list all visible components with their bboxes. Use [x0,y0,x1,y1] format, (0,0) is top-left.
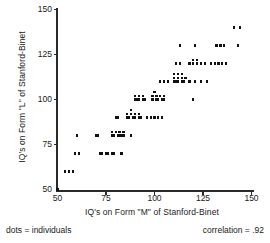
data-point [150,116,152,118]
data-point [192,59,194,61]
x-tick-mark [202,191,203,195]
x-tick-mark [154,191,155,195]
data-point [177,80,179,82]
data-point [115,131,117,133]
dots-legend-note: dots = individuals [6,225,71,235]
data-point [107,152,109,154]
data-point [221,62,223,64]
data-point [134,116,136,118]
data-point [177,77,179,79]
data-point [194,80,196,82]
data-point [161,116,163,118]
data-point [153,91,155,93]
data-point [134,113,136,115]
data-point [181,73,183,75]
data-point [138,95,140,97]
data-point [120,152,122,154]
data-point [159,95,161,97]
y-tick-label: 125 [26,49,52,59]
data-point [179,62,181,64]
data-point [144,98,146,100]
y-tick-mark [54,9,58,10]
data-point [223,44,225,46]
data-point [184,77,186,79]
y-tick-label: 150 [26,4,52,14]
data-point [173,73,175,75]
data-point [142,95,144,97]
data-point [151,98,153,100]
data-point [56,188,58,190]
data-point [163,80,165,82]
data-point [163,98,165,100]
data-point [237,44,239,46]
y-tick-mark [54,144,58,145]
data-point [210,62,212,64]
data-point [122,131,124,133]
data-point [76,134,78,136]
data-point [217,62,219,64]
data-point [64,170,66,172]
data-point [130,134,132,136]
data-point [138,113,140,115]
data-point [192,98,194,100]
data-point [219,44,221,46]
data-point [196,62,198,64]
data-point [225,62,227,64]
data-point [146,116,148,118]
data-point [78,152,80,154]
data-point [101,152,103,154]
data-point [239,26,241,28]
data-point [72,170,74,172]
data-point [233,26,235,28]
correlation-note: correlation = .92 [203,225,264,235]
data-point [122,134,124,136]
data-point [181,77,183,79]
data-point [74,152,76,154]
data-point [183,80,185,82]
scatter-plot-figure: IQ's on Form "L" of Stanford-Binet IQ's … [0,0,270,243]
data-point [200,62,202,64]
data-point [163,95,165,97]
data-point [175,62,177,64]
data-point [206,80,208,82]
x-axis-label: IQ's on Form "M" of Stanford-Binet [38,207,266,217]
data-point [117,116,119,118]
data-point [215,44,217,46]
data-point [151,95,153,97]
data-point [159,80,161,82]
data-point [140,116,142,118]
data-point [153,116,155,118]
data-point [97,134,99,136]
data-point [68,170,70,172]
y-tick-label: 75 [26,139,52,149]
data-point [130,113,132,115]
data-point [118,131,120,133]
data-point [214,62,216,64]
data-point [113,152,115,154]
data-point [157,116,159,118]
x-tick-mark [251,191,252,195]
y-tick-mark [54,99,58,100]
data-point [113,134,115,136]
data-point [134,95,136,97]
data-point [192,62,194,64]
data-point [155,95,157,97]
data-point [130,109,132,111]
y-tick-label: 100 [26,94,52,104]
data-point [194,44,196,46]
data-point [196,59,198,61]
y-tick-mark [54,54,58,55]
data-point [200,80,202,82]
data-point [138,98,140,100]
data-point [188,62,190,64]
data-point [167,80,169,82]
data-point [157,98,159,100]
data-point [126,113,128,115]
x-tick-label: 50 [45,193,71,203]
data-point [204,62,206,64]
data-point [179,44,181,46]
data-point [177,73,179,75]
data-point [188,80,190,82]
data-point [128,116,130,118]
data-point [111,131,113,133]
